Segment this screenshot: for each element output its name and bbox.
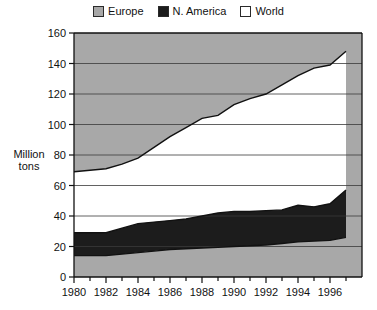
x-tick-label: 1984 xyxy=(126,286,150,298)
y-tick-label: 120 xyxy=(48,88,66,100)
chart-plot-area: 020406080100120140160 198019821984198619… xyxy=(0,0,377,310)
x-tick-label: 1988 xyxy=(190,286,214,298)
x-tick-label: 1982 xyxy=(94,286,118,298)
x-tick-label: 1994 xyxy=(286,286,310,298)
y-tick-label: 0 xyxy=(60,271,66,283)
y-tick-label: 80 xyxy=(54,149,66,161)
y-tick-label: 100 xyxy=(48,119,66,131)
y-tick-label: 20 xyxy=(54,241,66,253)
x-tick-label: 1996 xyxy=(318,286,342,298)
x-tick-label: 1980 xyxy=(62,286,86,298)
y-tick-label: 160 xyxy=(48,27,66,39)
y-tick-label: 60 xyxy=(54,180,66,192)
y-tick-label: 140 xyxy=(48,58,66,70)
chart-figure: Europe N. America World Million tons 020… xyxy=(0,0,377,310)
x-axis-ticks: 198019821984198619881990199219941996 xyxy=(62,277,346,298)
y-tick-label: 40 xyxy=(54,210,66,222)
x-tick-label: 1990 xyxy=(222,286,246,298)
x-tick-label: 1986 xyxy=(158,286,182,298)
y-axis-ticks: 020406080100120140160 xyxy=(48,27,74,283)
x-tick-label: 1992 xyxy=(254,286,278,298)
